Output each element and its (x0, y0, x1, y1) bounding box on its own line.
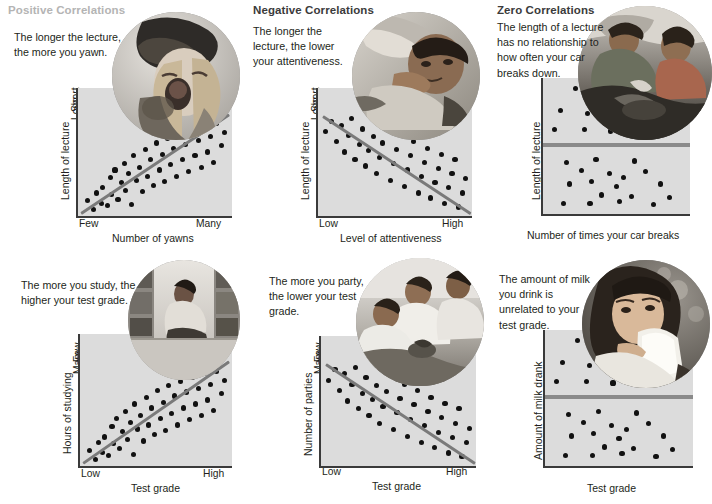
scatter-dot (125, 437, 130, 442)
scatter-dot (380, 140, 385, 145)
scatter-dot (590, 453, 595, 458)
scatter-dot (199, 165, 204, 170)
x-axis-title: Number of times your car breaks (527, 229, 679, 241)
scatter-dot (145, 174, 150, 179)
scatter-dot (653, 454, 658, 459)
scatter-dot (415, 388, 420, 393)
y-axis-title: Amount of milk drank (532, 361, 544, 460)
scatter-dot (152, 432, 157, 437)
x-axis-line (316, 216, 472, 218)
x-axis-line (78, 466, 232, 468)
caption-text: The longer the lecture, the lower your a… (253, 24, 353, 70)
scatter-dot (109, 424, 114, 429)
y-axis-title: Length of lecture (299, 122, 311, 200)
x-axis-title: Test grade (372, 480, 421, 492)
photo-graphic (352, 12, 480, 140)
scatter-dot (205, 397, 210, 402)
panel-zero-lecture-car: The length of a lecture has no relations… (474, 0, 711, 252)
scatter-dot (587, 201, 592, 206)
scatter-dot (634, 410, 639, 415)
scatter-dot (624, 427, 629, 432)
caption-text: The amount of milk you drink is unrelate… (499, 272, 599, 333)
photo-graphic (128, 260, 240, 380)
x-axis-line (319, 466, 476, 468)
panel-positive-lecture-yawn: The longer the lecture, the more you yaw… (0, 0, 237, 252)
scatter-dot (416, 190, 421, 195)
scatter-dot (219, 143, 224, 148)
x-tick-high: Many (196, 218, 221, 229)
scatter-dot (122, 161, 127, 166)
scatter-dot (163, 428, 168, 433)
scatter-dot (632, 158, 637, 163)
scatter-dot (432, 180, 437, 185)
scatter-dot (661, 433, 666, 438)
x-axis-title: Test grade (587, 482, 636, 494)
scatter-dot (174, 174, 179, 179)
scatter-dot (579, 168, 584, 173)
scatter-dot (449, 171, 454, 176)
scatter-dot (436, 166, 441, 171)
scatter-dot (112, 167, 117, 172)
x-axis-line (543, 466, 693, 468)
scatter-dot (211, 160, 216, 165)
scatter-dot (402, 184, 407, 189)
scatter-dot (196, 386, 201, 391)
x-axis-title: Test grade (131, 482, 180, 494)
scatter-dot (175, 422, 180, 427)
scatter-dot (87, 448, 92, 453)
y-axis-title: Length of lecture (59, 122, 71, 200)
panel-negative-lecture-attentiveness: The longer the lecture, the lower your a… (244, 0, 481, 252)
scatter-dot (446, 450, 451, 455)
trend-line-flat (543, 143, 690, 146)
scatter-dot (460, 190, 465, 195)
scatter-dot (422, 160, 427, 165)
photo-yawning-woman (112, 12, 240, 140)
scatter-dot (151, 183, 156, 188)
x-axis-line (76, 216, 232, 218)
scatter-dot (352, 157, 357, 162)
scatter-dot (94, 190, 99, 195)
scatter-dot (607, 171, 612, 176)
x-axis-title: Level of attentiveness (340, 232, 442, 244)
scatter-dot (596, 409, 601, 414)
scatter-dot (85, 198, 90, 203)
scatter-dot (651, 202, 656, 207)
y-axis-title: Number of parties (302, 373, 314, 456)
y-axis-title: Length of lecture (530, 122, 542, 200)
scatter-dot (456, 406, 461, 411)
photo-sleeping-student (352, 12, 480, 140)
scatter-dot (599, 192, 604, 197)
scatter-dot (102, 434, 107, 439)
scatter-dot (439, 152, 444, 157)
scatter-dot (149, 405, 154, 410)
scatter-dot (169, 411, 174, 416)
caption-text: The longer the lecture, the more you yaw… (14, 30, 126, 60)
photo-library-student (128, 260, 240, 380)
scatter-dot (442, 401, 447, 406)
scatter-dot (205, 149, 210, 154)
scatter-dot (131, 452, 136, 457)
photo-graphic (112, 12, 240, 140)
panel-positive-study-grade: The more you study, the higher your test… (0, 252, 237, 504)
x-tick-low: Few (79, 218, 98, 229)
scatter-dot (397, 396, 402, 401)
scatter-dot (629, 194, 634, 199)
scatter-dot (564, 160, 569, 165)
scatter-dot (567, 181, 572, 186)
panel-negative-party-grade: The more you party, the lower your test … (244, 252, 481, 504)
scatter-dot (157, 167, 162, 172)
x-axis-line (541, 214, 690, 216)
scatter-dot (96, 440, 101, 445)
x-axis-title: Number of yawns (112, 232, 194, 244)
scatter-dot (342, 149, 347, 154)
y-axis-line (316, 88, 318, 216)
scatter-dot (569, 433, 574, 438)
scatter-dot (141, 438, 146, 443)
scatter-dot (563, 453, 568, 458)
scatter-dot (366, 413, 371, 418)
scatter-dot (609, 423, 614, 428)
x-tick-low: Low (319, 218, 338, 229)
scatter-dot (166, 383, 171, 388)
photo-graphic (582, 260, 710, 388)
scatter-dot (154, 140, 159, 145)
